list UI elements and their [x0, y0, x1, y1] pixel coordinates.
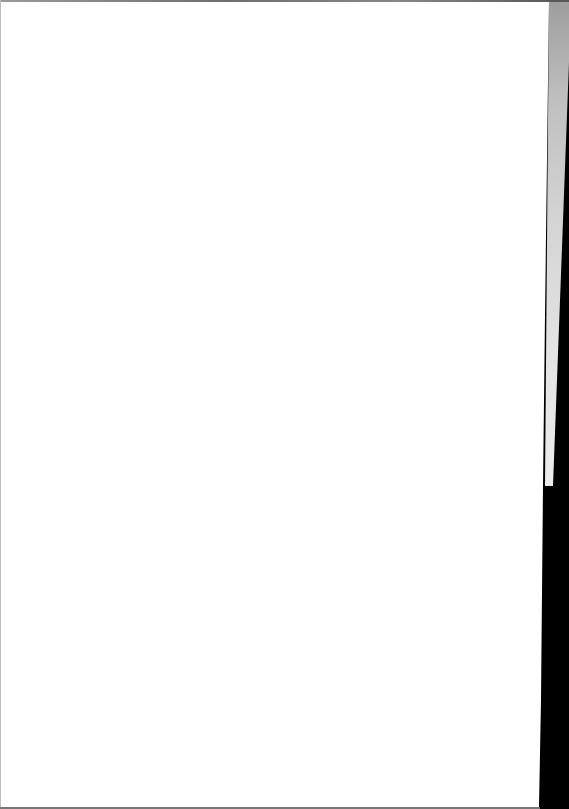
page-left-edge	[0, 0, 1, 809]
page-top-edge	[0, 0, 569, 2]
blank-page	[0, 0, 569, 809]
